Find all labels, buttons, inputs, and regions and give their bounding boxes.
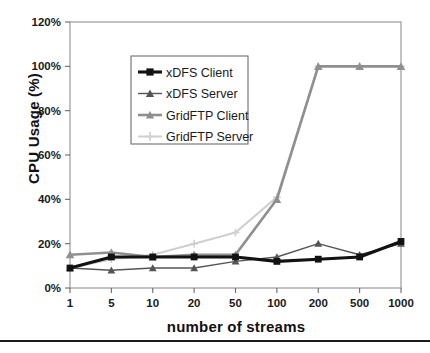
y-axis-tick-label: 20% (38, 238, 61, 250)
chart-legend: xDFS ClientxDFS ServerGridFTP ClientGrid… (131, 56, 253, 144)
y-axis-tick-label: 120% (32, 16, 61, 28)
legend-label-1: xDFS Server (166, 87, 238, 101)
legend-label-3: GridFTP Server (166, 130, 253, 144)
x-axis-tick-label: 1000 (388, 297, 414, 309)
x-axis-tick-label: 1 (67, 297, 74, 309)
chart-figure: 0%20%40%60%80%100%120%151020501002005001… (0, 0, 430, 353)
cpu-usage-line-chart: 0%20%40%60%80%100%120%151020501002005001… (0, 0, 430, 353)
x-axis-tick-label: 100 (267, 297, 286, 309)
legend-label-2: GridFTP Client (166, 109, 249, 123)
data-point-marker (67, 265, 74, 272)
data-point-marker (398, 238, 405, 245)
data-point-marker (146, 68, 153, 75)
x-axis-title: number of streams (70, 318, 402, 335)
x-axis-tick-label: 5 (108, 297, 115, 309)
data-point-marker (315, 256, 322, 263)
data-point-marker (108, 254, 115, 261)
y-axis-title: CPU Usage (%) (25, 49, 42, 209)
x-axis-tick-label: 500 (350, 297, 369, 309)
data-point-marker (232, 254, 239, 261)
legend-label-0: xDFS Client (166, 66, 233, 80)
x-axis-tick-label: 200 (309, 297, 328, 309)
x-axis-tick-label: 50 (229, 297, 242, 309)
x-axis-tick-label: 20 (188, 297, 201, 309)
data-point-marker (191, 254, 198, 261)
page-divider-rule (0, 340, 430, 342)
y-axis-tick-label: 0% (44, 282, 61, 294)
data-point-marker (356, 254, 363, 261)
x-axis-tick-label: 10 (146, 297, 159, 309)
data-point-marker (273, 258, 280, 265)
data-point-marker (149, 254, 156, 261)
